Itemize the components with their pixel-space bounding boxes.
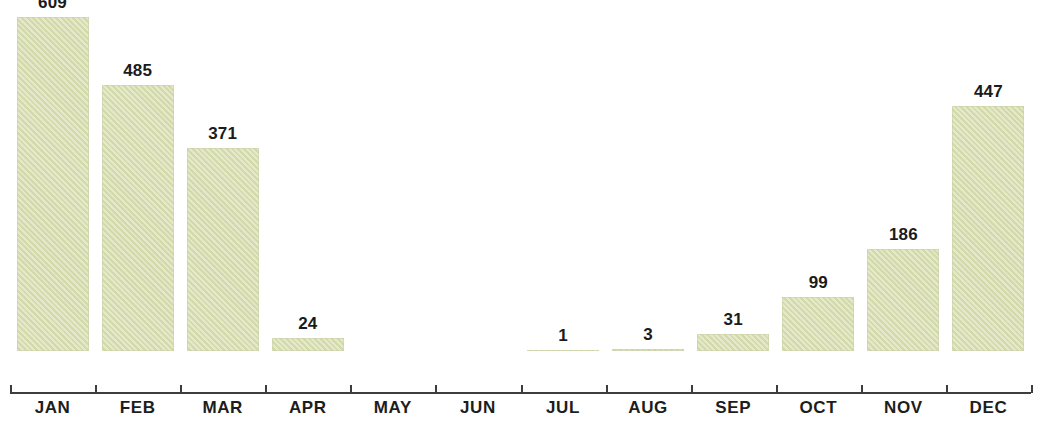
bar-group-nov[interactable]: 186 <box>861 0 946 351</box>
bar-group-sep[interactable]: 31 <box>691 0 776 351</box>
category-label-may: MAY <box>374 398 412 418</box>
bar-group-dec[interactable]: 447 <box>946 0 1031 351</box>
bar-chart: 60948537124133199186447 JANFEBMARAPRMAYJ… <box>0 0 1041 435</box>
value-label-sep: 31 <box>724 310 743 330</box>
bar-group-oct[interactable]: 99 <box>776 0 861 351</box>
value-label-jul: 1 <box>558 326 568 346</box>
axis-tick <box>946 385 948 393</box>
category-label-jan: JAN <box>35 398 71 418</box>
value-label-feb: 485 <box>123 61 152 81</box>
bar-oct[interactable] <box>782 297 854 351</box>
value-label-dec: 447 <box>974 82 1003 102</box>
bar-group-mar[interactable]: 371 <box>180 0 265 351</box>
category-label-oct: OCT <box>799 398 837 418</box>
x-axis-category-labels: JANFEBMARAPRMAYJUNJULAUGSEPOCTNOVDEC <box>0 398 1041 430</box>
value-label-nov: 186 <box>889 225 918 245</box>
axis-tick <box>350 385 352 393</box>
value-label-jan: 609 <box>38 0 67 13</box>
axis-tick <box>691 385 693 393</box>
bar-group-aug[interactable]: 3 <box>606 0 691 351</box>
bar-group-feb[interactable]: 485 <box>95 0 180 351</box>
axis-tick <box>265 385 267 393</box>
bar-group-may[interactable] <box>350 0 435 351</box>
category-label-aug: AUG <box>628 398 668 418</box>
axis-tick <box>861 385 863 393</box>
category-label-sep: SEP <box>715 398 751 418</box>
bar-group-jun[interactable] <box>435 0 520 351</box>
bar-group-jan[interactable]: 609 <box>10 0 95 351</box>
axis-tick <box>180 385 182 393</box>
category-label-dec: DEC <box>970 398 1008 418</box>
bar-dec[interactable] <box>952 106 1024 351</box>
category-label-jul: JUL <box>546 398 580 418</box>
value-label-oct: 99 <box>809 273 828 293</box>
axis-tick <box>10 385 12 393</box>
value-label-mar: 371 <box>208 124 237 144</box>
bar-jul[interactable] <box>527 350 599 352</box>
value-label-aug: 3 <box>643 325 653 345</box>
bar-sep[interactable] <box>697 334 769 351</box>
category-label-nov: NOV <box>884 398 923 418</box>
bar-jan[interactable] <box>17 17 89 351</box>
bar-group-jul[interactable]: 1 <box>521 0 606 351</box>
bar-apr[interactable] <box>272 338 344 351</box>
bar-nov[interactable] <box>867 249 939 351</box>
axis-tick <box>521 385 523 393</box>
bar-aug[interactable] <box>612 349 684 351</box>
category-label-feb: FEB <box>120 398 156 418</box>
axis-tick <box>95 385 97 393</box>
axis-tick <box>606 385 608 393</box>
category-label-apr: APR <box>289 398 327 418</box>
bar-mar[interactable] <box>187 148 259 351</box>
bar-group-apr[interactable]: 24 <box>265 0 350 351</box>
category-label-mar: MAR <box>202 398 243 418</box>
value-label-apr: 24 <box>298 314 317 334</box>
axis-tick <box>1031 385 1033 393</box>
category-label-jun: JUN <box>460 398 496 418</box>
plot-area: 60948537124133199186447 <box>0 0 1041 394</box>
axis-tick <box>435 385 437 393</box>
bars-layer: 60948537124133199186447 <box>0 0 1041 394</box>
axis-tick <box>776 385 778 393</box>
bar-feb[interactable] <box>102 85 174 351</box>
